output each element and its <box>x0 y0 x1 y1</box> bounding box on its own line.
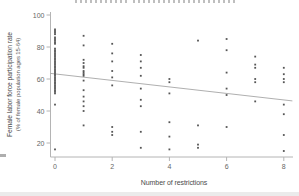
data-point <box>54 78 56 80</box>
data-point <box>169 149 171 151</box>
data-point <box>54 88 56 90</box>
data-point <box>54 73 56 75</box>
data-point <box>83 125 85 127</box>
data-point <box>54 61 56 63</box>
data-point <box>83 89 85 91</box>
data-point <box>111 70 113 72</box>
data-point <box>54 51 56 53</box>
data-point <box>83 96 85 98</box>
data-point <box>226 49 228 51</box>
data-point <box>111 131 113 133</box>
data-point <box>54 41 56 43</box>
data-point <box>283 67 285 69</box>
data-point <box>83 65 85 67</box>
data-point <box>169 78 171 80</box>
data-point <box>83 105 85 107</box>
y-tick-label: 40 <box>37 108 45 115</box>
data-point <box>54 54 56 56</box>
data-point <box>283 81 285 83</box>
data-point <box>197 144 199 146</box>
data-point <box>169 81 171 83</box>
data-point <box>111 134 113 136</box>
data-point <box>140 99 142 101</box>
x-tick-label: 6 <box>225 163 229 170</box>
data-point <box>54 104 56 106</box>
data-point <box>83 72 85 74</box>
data-point <box>254 67 256 69</box>
x-axis-label: Number of restrictions <box>55 179 293 186</box>
data-point <box>254 56 256 58</box>
data-point <box>283 134 285 136</box>
data-point <box>254 81 256 83</box>
data-point <box>54 59 56 61</box>
data-point <box>283 78 285 80</box>
data-point <box>54 91 56 93</box>
data-point <box>226 94 228 96</box>
data-point <box>197 40 199 42</box>
data-point <box>54 86 56 88</box>
data-point <box>111 61 113 63</box>
data-point <box>54 32 56 34</box>
data-point <box>54 67 56 69</box>
left-edge-crop-artifact <box>0 154 6 157</box>
data-point <box>54 49 56 51</box>
data-point <box>54 85 56 87</box>
chart-screenshot: Female labor force participation rate (%… <box>0 0 299 196</box>
data-point <box>140 105 142 107</box>
data-point <box>111 85 113 87</box>
data-point <box>54 89 56 91</box>
data-point <box>54 48 56 50</box>
data-point <box>140 88 142 90</box>
data-point <box>226 126 228 128</box>
data-point <box>140 61 142 63</box>
y-tick-label: 20 <box>37 140 45 147</box>
data-point <box>140 75 142 77</box>
data-point <box>54 29 56 31</box>
data-point <box>283 150 285 152</box>
data-point <box>54 69 56 71</box>
data-point <box>54 83 56 85</box>
data-point <box>54 43 56 45</box>
data-point <box>83 67 85 69</box>
data-point <box>140 147 142 149</box>
data-point <box>54 40 56 42</box>
data-point <box>283 113 285 115</box>
data-point <box>83 35 85 37</box>
x-tick-label: 8 <box>282 163 286 170</box>
data-point <box>254 64 256 66</box>
data-point <box>169 93 171 95</box>
data-point <box>54 70 56 72</box>
data-point <box>54 93 56 95</box>
data-point <box>54 57 56 59</box>
data-point <box>111 43 113 45</box>
data-point <box>83 59 85 61</box>
data-point <box>197 147 199 149</box>
data-point <box>83 75 85 77</box>
data-point <box>111 126 113 128</box>
data-point <box>169 121 171 123</box>
y-tick-label: 100 <box>33 12 45 19</box>
data-point <box>226 38 228 40</box>
data-point <box>54 149 56 151</box>
x-tick-label: 4 <box>167 163 171 170</box>
data-point <box>54 30 56 32</box>
y-tick-label: 60 <box>37 76 45 83</box>
data-point <box>54 62 56 64</box>
data-point <box>54 56 56 58</box>
data-point <box>254 78 256 80</box>
data-point <box>54 77 56 79</box>
data-point <box>83 80 85 82</box>
scatter-plot: 2040608010002468 <box>0 0 299 196</box>
data-point <box>254 101 256 103</box>
data-point <box>54 72 56 74</box>
data-point <box>226 88 228 90</box>
data-point <box>54 80 56 82</box>
data-point <box>54 38 56 40</box>
data-point <box>140 54 142 56</box>
trend-line <box>51 73 293 101</box>
data-point <box>54 33 56 35</box>
data-point <box>226 72 228 74</box>
x-tick-label: 2 <box>110 163 114 170</box>
data-point <box>54 53 56 55</box>
data-point <box>83 101 85 103</box>
